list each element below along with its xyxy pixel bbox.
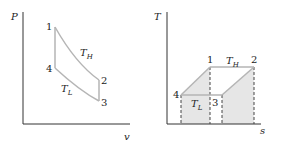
ts-point-1-label: 1 [207, 54, 213, 65]
ts-point-2-label: 2 [251, 54, 257, 65]
pv-th-label: TH [80, 47, 94, 61]
pv-point-4-label: 4 [46, 63, 52, 74]
ts-point-4-label: 4 [173, 89, 179, 100]
ts-diagram: T s 1 2 3 4 TH TL [154, 11, 265, 136]
pv-point-1-label: 1 [46, 21, 52, 32]
ts-x-axis-label: s [260, 125, 265, 136]
pv-point-3-label: 3 [101, 97, 107, 108]
ts-shade-3-2 [222, 67, 254, 124]
ts-point-3-label: 3 [212, 97, 218, 108]
pv-x-axis-label: v [124, 131, 130, 142]
ts-y-axis-label: T [154, 11, 162, 22]
diagram-canvas: P v 1 2 3 4 TH TL T s 1 2 3 4 [0, 0, 283, 142]
pv-diagram: P v 1 2 3 4 TH TL [10, 11, 130, 142]
pv-point-2-label: 2 [101, 75, 107, 86]
pv-tl-label: TL [61, 83, 73, 97]
pv-y-axis-label: P [10, 11, 18, 22]
